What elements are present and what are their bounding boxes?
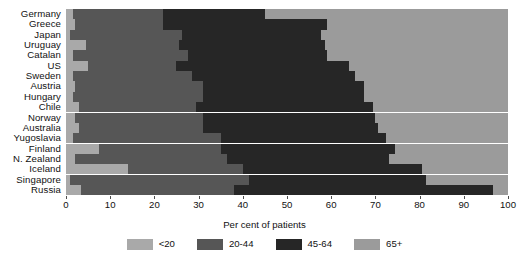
bar-row: Norway bbox=[0, 113, 529, 124]
bar-segment bbox=[373, 102, 508, 112]
bar-segment bbox=[73, 133, 221, 143]
bar-segment bbox=[182, 30, 321, 40]
bar-track bbox=[66, 123, 508, 133]
bar-segment bbox=[66, 9, 73, 19]
bar-segment bbox=[234, 185, 493, 195]
bar-track bbox=[66, 71, 508, 81]
bar-segment bbox=[75, 154, 227, 164]
bar-segment bbox=[75, 81, 203, 91]
bar-track bbox=[66, 102, 508, 112]
bar-row: Finland bbox=[0, 144, 529, 155]
bar-row: Japan bbox=[0, 30, 529, 41]
bar-row: Australia bbox=[0, 123, 529, 134]
bar-segment bbox=[163, 19, 327, 29]
category-label: Finland bbox=[0, 143, 61, 154]
axis-tick-label: 20 bbox=[149, 199, 160, 211]
bar-segment bbox=[66, 185, 81, 195]
category-label: Catalan bbox=[0, 49, 61, 60]
axis-tick-label: 10 bbox=[105, 199, 116, 211]
bar-segment bbox=[389, 154, 508, 164]
bar-row: Iceland bbox=[0, 164, 529, 175]
legend-label: 65+ bbox=[386, 238, 402, 250]
bar-segment bbox=[66, 154, 75, 164]
bar-track bbox=[66, 154, 508, 164]
category-label: Australia bbox=[0, 122, 61, 133]
stacked-bar-chart: GermanyGreeceJapanUruguayCatalanUSSweden… bbox=[0, 0, 529, 263]
bar-segment bbox=[203, 81, 364, 91]
axis-tick-label: 90 bbox=[458, 199, 469, 211]
category-label: Iceland bbox=[0, 163, 61, 174]
bar-row: Yugoslavia bbox=[0, 133, 529, 144]
bar-segment bbox=[203, 123, 378, 133]
bar-segment bbox=[192, 71, 356, 81]
bar-row: N. Zealand bbox=[0, 154, 529, 165]
bar-segment bbox=[73, 50, 188, 60]
legend-item[interactable]: <20 bbox=[127, 238, 175, 250]
bar-segment bbox=[66, 164, 128, 174]
bar-segment bbox=[227, 154, 388, 164]
plot-area: GermanyGreeceJapanUruguayCatalanUSSweden… bbox=[0, 0, 529, 196]
bar-segment bbox=[327, 19, 508, 29]
bar-segment bbox=[66, 71, 73, 81]
bar-segment bbox=[249, 175, 426, 185]
bar-row: Germany bbox=[0, 9, 529, 20]
bar-segment bbox=[66, 123, 79, 133]
bar-segment bbox=[321, 30, 508, 40]
bar-segment bbox=[75, 113, 203, 123]
bar-segment bbox=[364, 81, 508, 91]
category-label: Austria bbox=[0, 80, 61, 91]
legend-label: 45-64 bbox=[308, 238, 333, 250]
bar-segment bbox=[66, 40, 86, 50]
bar-segment bbox=[73, 92, 203, 102]
category-label: Germany bbox=[0, 8, 61, 19]
axis-tick-label: 30 bbox=[193, 199, 204, 211]
axis-tick-label: 50 bbox=[282, 199, 293, 211]
bar-segment bbox=[176, 61, 348, 71]
legend-item[interactable]: 65+ bbox=[354, 238, 402, 250]
category-label: N. Zealand bbox=[0, 153, 61, 164]
bar-segment bbox=[163, 9, 265, 19]
bar-segment bbox=[196, 102, 373, 112]
bar-segment bbox=[70, 175, 249, 185]
category-label: Sweden bbox=[0, 70, 61, 81]
axis-tick-label: 70 bbox=[370, 199, 381, 211]
bar-segment bbox=[327, 50, 508, 60]
bar-segment bbox=[79, 102, 196, 112]
bar-track bbox=[66, 30, 508, 40]
bar-track bbox=[66, 92, 508, 102]
bar-segment bbox=[422, 164, 508, 174]
bar-row: Hungary bbox=[0, 92, 529, 103]
bar-segment bbox=[179, 40, 325, 50]
bar-row: Catalan bbox=[0, 50, 529, 61]
bar-track bbox=[66, 113, 508, 123]
bar-row: Greece bbox=[0, 19, 529, 30]
bar-segment bbox=[66, 92, 73, 102]
bar-segment bbox=[86, 40, 179, 50]
legend-label: 20-44 bbox=[229, 238, 254, 250]
bar-track bbox=[66, 133, 508, 143]
bar-segment bbox=[66, 50, 73, 60]
legend: <2020-4445-6465+ bbox=[0, 235, 529, 253]
bar-track bbox=[66, 61, 508, 71]
bar-segment bbox=[73, 71, 192, 81]
bar-row: Sweden bbox=[0, 71, 529, 82]
legend-swatch bbox=[276, 239, 302, 250]
legend-swatch bbox=[197, 239, 223, 250]
category-label: US bbox=[0, 60, 61, 71]
bar-segment bbox=[66, 102, 79, 112]
bar-segment bbox=[395, 144, 508, 154]
bar-segment bbox=[66, 113, 75, 123]
legend-item[interactable]: 45-64 bbox=[276, 238, 333, 250]
bar-segment bbox=[203, 92, 364, 102]
bar-row: Austria bbox=[0, 81, 529, 92]
bar-segment bbox=[349, 61, 508, 71]
bar-segment bbox=[70, 30, 183, 40]
bar-track bbox=[66, 19, 508, 29]
bar-segment bbox=[221, 133, 387, 143]
bar-segment bbox=[81, 185, 233, 195]
legend-item[interactable]: 20-44 bbox=[197, 238, 254, 250]
bar-segment bbox=[325, 40, 508, 50]
bar-track bbox=[66, 164, 508, 174]
category-label: Chile bbox=[0, 101, 61, 112]
axis-tick-label: 100 bbox=[500, 199, 516, 211]
